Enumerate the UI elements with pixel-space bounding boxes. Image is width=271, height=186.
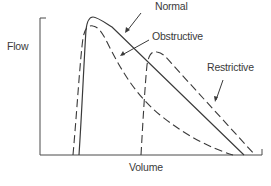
pointer-lines <box>122 13 223 100</box>
axes <box>40 18 262 155</box>
diagram-canvas <box>0 0 271 186</box>
obstructive-arrowhead-icon <box>120 51 125 56</box>
y-axis-label: Flow <box>7 41 28 52</box>
obstructive-curve <box>73 26 233 155</box>
restrictive-arrowhead-icon <box>214 96 218 102</box>
obstructive-pointer <box>122 40 149 55</box>
x-axis-label: Volume <box>129 162 163 173</box>
normal-pointer <box>127 13 141 31</box>
normal-curve-label: Normal <box>155 1 188 12</box>
y-axis <box>40 18 46 155</box>
restrictive-curve-label: Restrictive <box>207 62 254 73</box>
obstructive-curve-label: Obstructive <box>152 31 203 42</box>
